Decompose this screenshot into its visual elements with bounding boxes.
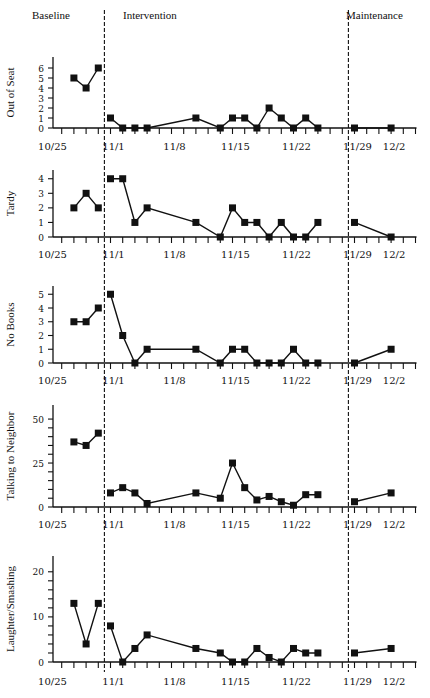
y-axis-label: Laughter/Smashing xyxy=(4,565,16,652)
intervention-series-line xyxy=(111,179,318,237)
data-point-marker xyxy=(290,346,297,353)
data-point-marker xyxy=(302,115,309,122)
data-point-marker xyxy=(278,498,285,505)
data-point-marker xyxy=(351,649,358,656)
data-point-marker xyxy=(107,115,114,122)
x-tick-label: 11/29 xyxy=(343,375,372,386)
y-tick-label: 50 xyxy=(33,415,45,425)
data-point-marker xyxy=(266,105,273,112)
data-point-marker xyxy=(144,204,151,211)
data-point-marker xyxy=(144,346,151,353)
x-tick-label: 11/1 xyxy=(102,676,124,687)
data-point-marker xyxy=(290,645,297,652)
y-tick-label: 4 xyxy=(38,174,44,184)
data-point-marker xyxy=(290,502,297,509)
data-point-marker xyxy=(217,125,224,132)
data-point-marker xyxy=(70,438,77,445)
data-point-marker xyxy=(217,234,224,241)
data-point-marker xyxy=(217,360,224,367)
data-point-marker xyxy=(83,85,90,92)
maintenance-series-line xyxy=(355,349,392,363)
data-point-marker xyxy=(253,125,260,132)
x-tick-label: 11/22 xyxy=(282,141,311,152)
y-tick-label: 0 xyxy=(38,503,44,513)
data-point-marker xyxy=(107,622,114,629)
data-point-marker xyxy=(119,175,126,182)
data-point-marker xyxy=(192,115,199,122)
y-tick-label: 25 xyxy=(33,459,45,469)
data-point-marker xyxy=(95,305,102,312)
x-tick-label: 11/15 xyxy=(221,141,250,152)
data-point-marker xyxy=(253,360,260,367)
y-tick-label: 10 xyxy=(33,612,45,622)
data-point-marker xyxy=(131,645,138,652)
data-point-marker xyxy=(107,291,114,298)
data-point-marker xyxy=(192,346,199,353)
data-point-marker xyxy=(95,204,102,211)
data-point-marker xyxy=(241,219,248,226)
x-tick-label: 11/1 xyxy=(102,141,124,152)
x-tick-label: 12/2 xyxy=(383,676,405,687)
data-point-marker xyxy=(119,484,126,491)
data-point-marker xyxy=(314,491,321,498)
intervention-series-line xyxy=(111,108,318,128)
data-point-marker xyxy=(278,219,285,226)
data-point-marker xyxy=(314,649,321,656)
intervention-series-line xyxy=(111,294,318,363)
data-point-marker xyxy=(83,318,90,325)
maintenance-series-line xyxy=(355,493,392,502)
x-tick-label: 11/8 xyxy=(163,519,185,530)
x-tick-label: 11/15 xyxy=(221,519,250,530)
intervention-series-line xyxy=(111,463,318,505)
x-tick-label: 11/29 xyxy=(343,249,372,260)
intervention-series-line xyxy=(111,626,318,662)
x-tick-label: 11/1 xyxy=(102,519,124,530)
data-point-marker xyxy=(388,645,395,652)
data-point-marker xyxy=(351,498,358,505)
y-tick-label: 20 xyxy=(33,567,45,577)
x-tick-label: 11/8 xyxy=(163,375,185,386)
data-point-marker xyxy=(290,234,297,241)
data-point-marker xyxy=(144,631,151,638)
x-tick-label: 12/2 xyxy=(383,141,405,152)
data-point-marker xyxy=(388,125,395,132)
data-point-marker xyxy=(314,360,321,367)
data-point-marker xyxy=(119,659,126,666)
y-tick-label: 1 xyxy=(38,114,44,124)
data-point-marker xyxy=(229,460,236,467)
data-point-marker xyxy=(107,175,114,182)
y-tick-label: 5 xyxy=(38,74,44,84)
y-tick-label: 0 xyxy=(38,233,44,243)
data-point-marker xyxy=(95,430,102,437)
data-point-marker xyxy=(70,600,77,607)
data-point-marker xyxy=(351,360,358,367)
data-point-marker xyxy=(388,234,395,241)
data-point-marker xyxy=(229,115,236,122)
data-point-marker xyxy=(229,659,236,666)
data-point-marker xyxy=(70,318,77,325)
x-tick-label: 11/8 xyxy=(163,141,185,152)
data-point-marker xyxy=(217,649,224,656)
data-point-marker xyxy=(351,125,358,132)
data-point-marker xyxy=(241,484,248,491)
y-tick-label: 6 xyxy=(38,64,44,74)
y-axis-label: Tardy xyxy=(4,190,16,216)
x-tick-label: 11/1 xyxy=(102,249,124,260)
data-point-marker xyxy=(302,360,309,367)
data-point-marker xyxy=(70,204,77,211)
y-tick-label: 0 xyxy=(38,124,44,134)
y-tick-label: 1 xyxy=(38,345,44,355)
data-point-marker xyxy=(351,219,358,226)
data-point-marker xyxy=(241,346,248,353)
maintenance-series-line xyxy=(355,648,392,653)
x-tick-label: 11/1 xyxy=(102,375,124,386)
x-tick-label: 11/22 xyxy=(282,375,311,386)
data-point-marker xyxy=(278,115,285,122)
x-tick-label: 11/22 xyxy=(282,519,311,530)
x-tick-label: 11/8 xyxy=(163,249,185,260)
y-tick-label: 2 xyxy=(38,104,44,114)
data-point-marker xyxy=(70,75,77,82)
x-tick-label: 11/22 xyxy=(282,249,311,260)
data-point-marker xyxy=(302,491,309,498)
y-tick-label: 5 xyxy=(38,290,44,300)
